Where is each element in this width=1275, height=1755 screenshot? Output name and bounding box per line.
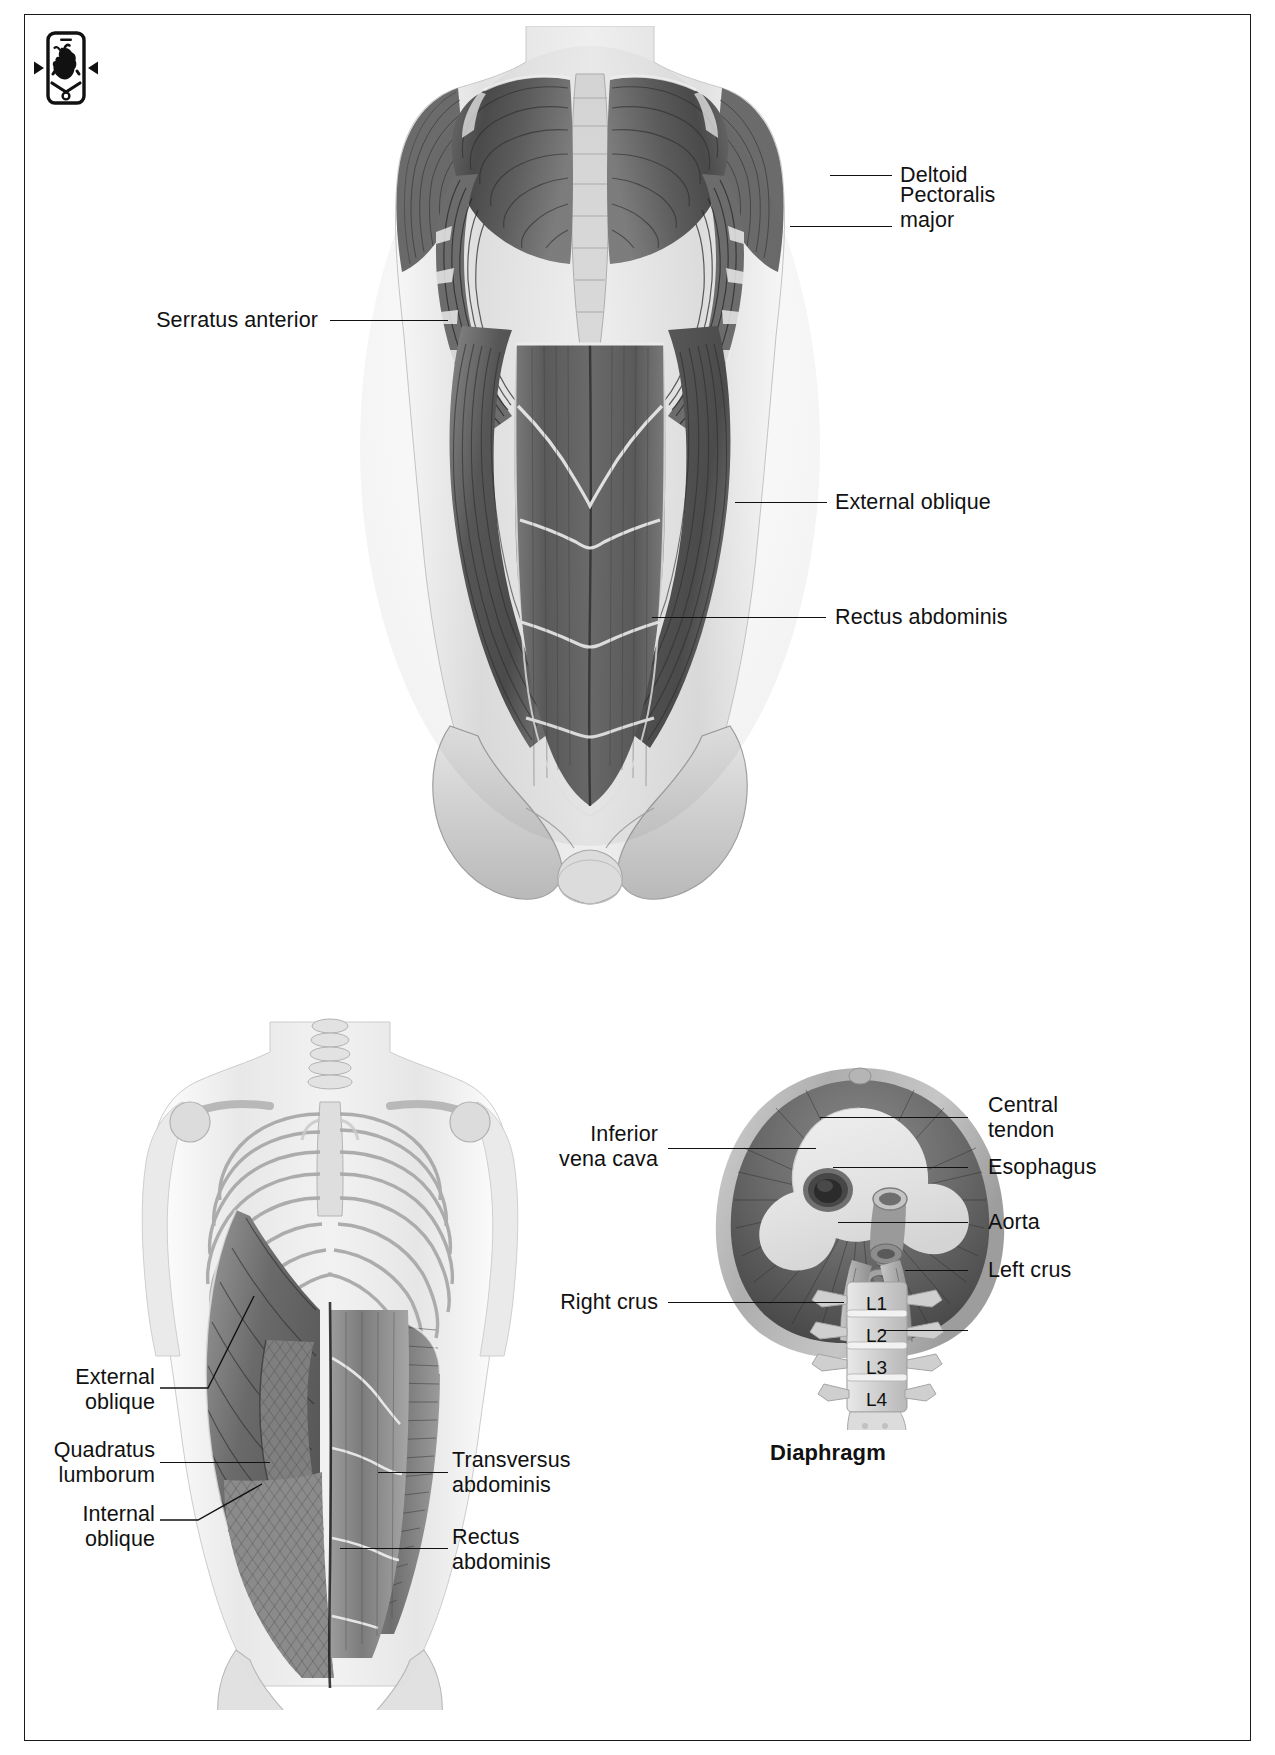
label-right-crus: Right crus bbox=[500, 1290, 658, 1315]
label-vertebra-l2: L2 bbox=[866, 1325, 887, 1347]
label-serratus-anterior: Serratus anterior bbox=[58, 308, 318, 333]
leader-line-quadratus-lumborum bbox=[160, 1462, 270, 1463]
label-central-tendon-line1: Central bbox=[988, 1093, 1058, 1118]
label-vertebra-l3: L3 bbox=[866, 1357, 887, 1379]
label-quadratus-lumborum-line2: lumborum bbox=[0, 1463, 155, 1488]
label-inferior-vena-cava-line1: Inferior bbox=[500, 1122, 658, 1147]
leader-line-rectus-abdominis-2 bbox=[340, 1548, 448, 1549]
label-rectus-abdominis-2-line2: abdominis bbox=[452, 1550, 551, 1575]
leader-line-serratus-anterior bbox=[330, 320, 448, 321]
leader-line-inferior-vena-cava bbox=[668, 1148, 816, 1149]
label-inferior-vena-cava-line2: vena cava bbox=[500, 1147, 658, 1172]
label-quadratus-lumborum-line1: Quadratus bbox=[0, 1438, 155, 1463]
label-pectoralis-major-line2: major bbox=[900, 208, 954, 233]
label-rectus-abdominis-1: Rectus abdominis bbox=[835, 605, 1008, 630]
label-internal-oblique-line2: oblique bbox=[0, 1527, 155, 1552]
label-transversus-abdominis-line2: abdominis bbox=[452, 1473, 551, 1498]
label-central-tendon-line2: tendon bbox=[988, 1118, 1054, 1143]
label-vertebra-l1: L1 bbox=[866, 1293, 887, 1315]
phone-heart-icon[interactable] bbox=[31, 29, 101, 107]
leader-line-left-crus bbox=[880, 1330, 968, 1331]
figure-diaphragm bbox=[700, 1060, 1020, 1430]
page-root: Deltoid Pectoralis major Serratus anteri… bbox=[0, 0, 1275, 1755]
caption-diaphragm: Diaphragm bbox=[770, 1440, 886, 1465]
leader-line-pectoralis-major bbox=[790, 226, 892, 227]
label-pectoralis-major-line1: Pectoralis bbox=[900, 183, 995, 208]
leader-line-central-tendon bbox=[820, 1117, 968, 1118]
label-external-oblique-2-line2: oblique bbox=[0, 1390, 155, 1415]
label-internal-oblique-line1: Internal bbox=[0, 1502, 155, 1527]
leader-line-deltoid bbox=[830, 175, 892, 176]
leader-line-esophagus bbox=[833, 1167, 968, 1168]
label-external-oblique-2-line1: External bbox=[0, 1365, 155, 1390]
label-external-oblique-1: External oblique bbox=[835, 490, 991, 515]
leader-line-external-oblique-2 bbox=[158, 1290, 268, 1400]
leader-line-rectus-abdominis-1 bbox=[652, 617, 826, 618]
label-transversus-abdominis-line1: Transversus bbox=[452, 1448, 571, 1473]
label-vertebra-l4: L4 bbox=[866, 1389, 887, 1411]
figure-anterior-trunk bbox=[330, 26, 850, 906]
leader-line-aorta bbox=[838, 1222, 968, 1223]
label-aorta: Aorta bbox=[988, 1210, 1040, 1235]
label-rectus-abdominis-2-line1: Rectus bbox=[452, 1525, 520, 1550]
leader-line-left-crus-2 bbox=[905, 1270, 968, 1271]
leader-line-right-crus bbox=[668, 1302, 844, 1303]
label-left-crus: Left crus bbox=[988, 1258, 1071, 1283]
leader-line-transversus-abdominis bbox=[378, 1472, 448, 1473]
leader-line-external-oblique-1 bbox=[735, 502, 827, 503]
leader-line-internal-oblique bbox=[158, 1480, 268, 1532]
label-esophagus: Esophagus bbox=[988, 1155, 1096, 1180]
